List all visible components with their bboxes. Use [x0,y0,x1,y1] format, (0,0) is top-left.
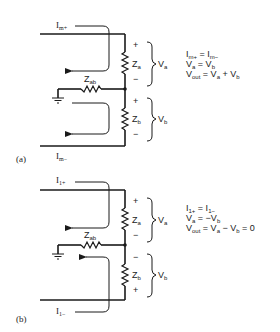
zb-sign-top: + [133,96,138,106]
current-path-lower [75,257,109,312]
circuit-figure: Im+ Im− (a) + Za − + Zb − Zab Va Vb Im+ … [0,0,280,332]
current-label-bottom: I1− [56,306,66,317]
zb-label: Zb [132,114,142,125]
zb-label: Zb [132,270,142,281]
panel-label: (a) [16,154,26,164]
vb-label: Vb [158,114,168,125]
vb-brace-icon [147,254,156,297]
za-resistor-icon [122,52,128,74]
current-label-top: I1+ [56,175,66,186]
zab-label: Zab [84,230,97,241]
va-label: Va [158,215,168,226]
zab-resistor-icon [81,242,101,248]
za-label: Za [132,59,142,70]
vb-label: Vb [158,270,168,281]
za-sign-top: + [133,196,138,206]
zb-resistor-icon [122,264,128,286]
panel-b: I1+ I1− (b) + Za − − Zb + Zab Va Vb I1+ … [16,175,255,324]
va-brace-icon [147,42,156,86]
panel-a: Im+ Im− (a) + Za − + Zb − Zab Va Vb Im+ … [16,20,240,164]
ground-icon [52,98,64,103]
equations-a: Im+ = Im− Va = Vb Vout = Va + Vb [186,49,240,80]
za-sign-bottom: − [133,74,138,84]
equation-3: Vout = Va − Vb = 0 [186,223,255,234]
current-path-upper [72,26,109,71]
za-sign-bottom: − [133,230,138,240]
vb-brace-icon [147,98,156,141]
current-label-top: Im+ [56,20,68,31]
zb-sign-bottom: + [133,285,138,295]
zb-sign-top: − [133,252,138,262]
current-path-upper [72,182,109,228]
panel-label: (b) [16,314,27,324]
za-resistor-icon [122,208,128,230]
za-label: Za [132,215,142,226]
va-label: Va [158,59,168,70]
va-brace-icon [147,198,156,242]
equations-b: I1+ = I1− Va = −Vb Vout = Va − Vb = 0 [186,203,255,234]
current-path-lower [72,103,109,134]
zb-sign-bottom: − [133,129,138,139]
equation-3: Vout = Va + Vb [186,69,240,80]
ground-icon [52,254,64,259]
zab-resistor-icon [81,86,101,92]
current-label-bottom: Im− [56,151,68,162]
zab-label: Zab [84,74,97,85]
zb-resistor-icon [122,108,128,130]
za-sign-top: + [133,40,138,50]
